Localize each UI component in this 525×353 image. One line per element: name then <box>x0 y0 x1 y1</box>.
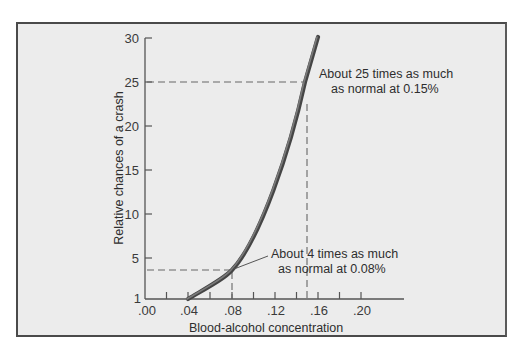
annotation-high-line1: About 25 times as much <box>319 67 453 81</box>
x-tick-20: .20 <box>353 303 371 318</box>
annotation-high: About 25 times as much as normal at 0.15… <box>319 67 453 96</box>
annotation-low-line1: About 4 times as much <box>271 247 398 261</box>
x-tick-labels: .00 .04 .08 .12 .16 .20 <box>138 303 371 318</box>
x-axis-title: Blood-alcohol concentration <box>189 321 343 335</box>
y-tick-5: 5 <box>132 251 139 266</box>
y-tick-25: 25 <box>125 75 139 90</box>
x-tick-16: .16 <box>310 303 328 318</box>
y-tick-20: 20 <box>125 119 139 134</box>
x-tick-04: .04 <box>180 303 198 318</box>
y-tick-15: 15 <box>125 163 139 178</box>
y-tick-labels: 30 25 20 15 10 5 1 <box>125 31 141 306</box>
annotation-low: About 4 times as much as normal at 0.08% <box>271 247 398 276</box>
x-tick-12: .12 <box>267 303 285 318</box>
x-tick-08: .08 <box>224 303 242 318</box>
y-tick-10: 10 <box>125 207 139 222</box>
annotation-high-line2: as normal at 0.15% <box>331 82 439 96</box>
y-tick-30: 30 <box>125 31 139 46</box>
y-ticks <box>145 38 152 258</box>
y-axis-title: Relative chances of a crash <box>112 91 126 245</box>
x-tick-00: .00 <box>138 303 156 318</box>
chart-plot: 30 25 20 15 10 5 1 .00 .04 .08 .12 .16 .… <box>0 0 525 353</box>
annotation-low-line2: as normal at 0.08% <box>278 262 386 276</box>
